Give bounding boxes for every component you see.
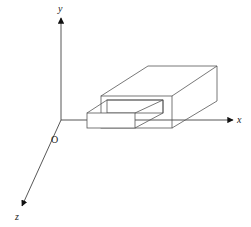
inner-box-front-face (87, 113, 135, 128)
outer-box-right-face (172, 66, 217, 128)
y-axis-label: y (58, 4, 62, 14)
inner-box (87, 100, 163, 128)
x-axis-label: x (237, 115, 241, 125)
coordinate-diagram (0, 0, 251, 227)
z-axis (22, 120, 61, 206)
inner-box-top-face (87, 100, 163, 113)
origin-label: O (51, 135, 58, 145)
outer-box-top-face (101, 66, 217, 96)
z-axis-label: z (15, 212, 19, 222)
inner-box-right-face (135, 100, 163, 128)
axes (22, 18, 233, 206)
outer-box-opening (107, 100, 163, 113)
